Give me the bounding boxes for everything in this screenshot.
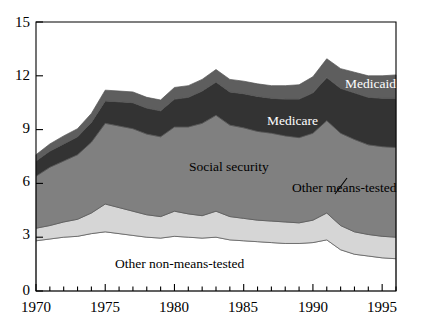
x-tick-label-1995: 1995 bbox=[359, 299, 405, 316]
series-label-medicare: Medicare bbox=[267, 113, 318, 129]
y-tick-label-15: 15 bbox=[2, 14, 30, 31]
x-tick-label-1990: 1990 bbox=[290, 299, 336, 316]
x-tick-label-1975: 1975 bbox=[82, 299, 128, 316]
series-label-medicaid: Medicaid bbox=[345, 76, 396, 92]
y-tick-label-12: 12 bbox=[2, 67, 30, 84]
x-tick-label-1985: 1985 bbox=[220, 299, 266, 316]
series-label-other-non-means-tested: Other non-means-tested bbox=[115, 256, 244, 272]
y-tick-label-0: 0 bbox=[2, 282, 30, 299]
x-tick-label-1970: 1970 bbox=[13, 299, 59, 316]
series-label-other-means-tested: Other means-tested bbox=[292, 180, 397, 196]
y-tick-label-6: 6 bbox=[2, 173, 30, 190]
y-tick-label-9: 9 bbox=[2, 120, 30, 137]
x-tick-label-1980: 1980 bbox=[151, 299, 197, 316]
series-label-social-security: Social security bbox=[189, 159, 269, 175]
stacked-area-chart: 15 12 9 6 3 0 1970 1975 1980 1985 1990 1… bbox=[0, 0, 429, 326]
y-tick-label-3: 3 bbox=[2, 226, 30, 243]
